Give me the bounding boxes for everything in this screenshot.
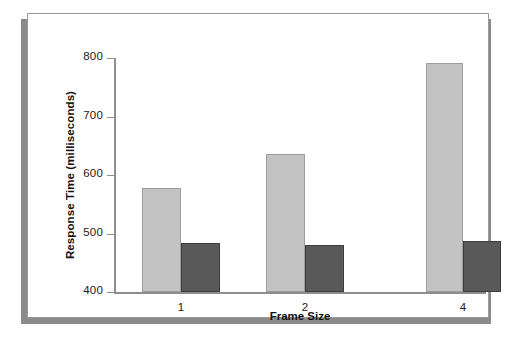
y-tick-700: 700	[107, 117, 114, 118]
bar-group3-series2	[463, 241, 501, 292]
y-tick-label-400: 400	[83, 284, 103, 296]
y-tick-label-500: 500	[83, 226, 103, 238]
y-axis-line	[114, 58, 116, 293]
y-tick-label-700: 700	[83, 109, 103, 121]
y-tick-label-600: 600	[83, 167, 103, 179]
chart-figure: Response Time (milliseconds) 800 700 600…	[0, 0, 514, 340]
x-axis-title: Frame Size	[114, 310, 486, 322]
x-axis-line	[114, 292, 486, 294]
plot-area: 800 700 600 500 400 1 2 4	[114, 58, 508, 292]
bar-group1-series1	[142, 188, 181, 292]
y-tick-600: 600	[107, 175, 114, 176]
y-tick-400: 400	[107, 292, 114, 293]
bar-group1-series2	[181, 243, 220, 292]
bar-group3-series1	[426, 63, 463, 292]
y-axis-title: Response Time (milliseconds)	[62, 58, 78, 292]
bar-group2-series1	[266, 154, 305, 292]
y-tick-500: 500	[107, 234, 114, 235]
y-tick-label-800: 800	[83, 50, 103, 62]
y-axis-title-text: Response Time (milliseconds)	[64, 91, 76, 259]
bar-group2-series2	[305, 245, 344, 292]
y-tick-800: 800	[107, 58, 114, 59]
chart-panel: Response Time (milliseconds) 800 700 600…	[27, 13, 489, 318]
